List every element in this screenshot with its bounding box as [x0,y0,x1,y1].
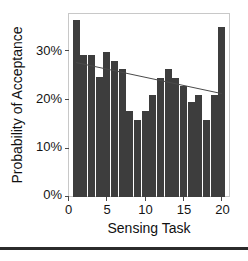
y-tick-label-20: 20% [36,91,62,106]
bar-chart: 0% 10% 20% 30% 0 5 10 15 20 Sensing Task… [0,0,248,261]
bar [88,55,95,197]
y-tick-label-0: 0% [43,187,62,202]
bar [218,27,225,197]
bar [172,78,179,197]
bar [180,86,187,197]
bar [73,20,80,196]
y-tick-label-30: 30% [36,43,62,58]
bar [80,55,87,197]
bar [142,111,149,196]
y-axis-title: Probability of Acceptance [9,26,25,183]
bar-series [73,20,225,196]
footer-divider [0,247,248,250]
x-tick-label-20: 20 [215,202,229,217]
x-tick-label-15: 15 [177,202,191,217]
y-tick-label-10: 10% [36,139,62,154]
figure-container: 0% 10% 20% 30% 0 5 10 15 20 Sensing Task… [0,0,248,261]
x-axis-ticks [69,197,222,201]
bar [119,69,126,196]
bar [111,61,118,197]
bar [96,77,103,196]
bar [149,95,156,197]
bar [157,78,164,197]
bar [103,52,110,197]
x-axis-title: Sensing Task [107,220,191,236]
bar [195,95,202,197]
bar [203,120,210,197]
bar [134,120,141,197]
bar [126,111,133,196]
y-axis-ticks [65,51,69,197]
bar [211,95,218,197]
x-tick-label-0: 0 [65,202,72,217]
x-tick-label-5: 5 [103,202,110,217]
x-tick-label-10: 10 [138,202,152,217]
bar [165,69,172,197]
bar [188,102,195,196]
